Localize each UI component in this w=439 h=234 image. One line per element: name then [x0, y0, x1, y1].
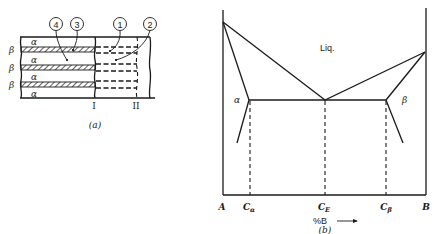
x-label-B: B	[421, 202, 430, 212]
svg-text:3: 3	[74, 20, 79, 30]
beta-lamella-1	[21, 47, 95, 52]
alpha-solvus	[237, 100, 249, 143]
right-edge	[149, 37, 150, 98]
region-label-liquid: Liq.	[320, 43, 335, 53]
callout-1: 1	[110, 18, 127, 52]
caption-b: (b)	[319, 225, 332, 234]
x-label-c-e: CE	[318, 202, 331, 214]
svg-text:2: 2	[147, 20, 152, 30]
line-label-I: I	[92, 101, 96, 111]
beta-lamella-2	[21, 65, 95, 70]
x-label-A: A	[218, 202, 226, 212]
beta-solvus	[386, 100, 403, 143]
phase-label-alpha: α	[31, 72, 37, 82]
phase-label-alpha: α	[31, 89, 37, 99]
phase-label-beta: β	[8, 80, 14, 90]
phase-label-beta: β	[8, 63, 14, 73]
panel-a-lamellar-structure: α β α β α β α 4 3 1 2 I II	[8, 18, 157, 131]
alpha-solidus	[223, 22, 249, 100]
region-label-alpha: α	[234, 95, 240, 105]
panel-b-phase-diagram: Liq. α β A Cα CE Cβ B %B (b)	[218, 8, 431, 234]
x-label-c-beta: Cβ	[380, 202, 392, 214]
beta-solidus	[386, 52, 425, 100]
interface-line-II	[136, 37, 137, 98]
phase-label-alpha: α	[31, 37, 37, 47]
svg-text:4: 4	[53, 20, 58, 30]
region-label-beta: β	[401, 95, 407, 105]
x-label-c-alpha: Cα	[243, 202, 255, 214]
svg-text:1: 1	[117, 20, 122, 30]
beta-lamella-3	[21, 82, 95, 87]
phase-label-beta: β	[8, 45, 14, 55]
caption-a: (a)	[89, 120, 102, 130]
diagram-canvas: α β α β α β α 4 3 1 2 I II	[0, 0, 439, 234]
phase-label-alpha: α	[31, 55, 37, 65]
callout-4: 4	[50, 18, 68, 61]
line-label-II: II	[132, 101, 140, 111]
callout-3: 3	[71, 18, 84, 51]
